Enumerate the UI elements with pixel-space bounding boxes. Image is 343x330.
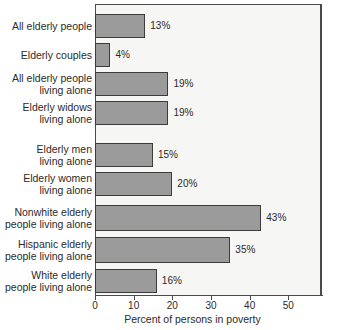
x-axis-tick-label: 20	[167, 301, 178, 311]
bar-value-label: 19%	[173, 79, 193, 89]
bar-value-label: 15%	[158, 150, 178, 160]
category-label: Elderly widows living alone	[0, 102, 92, 125]
x-axis-tick-label: 50	[283, 301, 294, 311]
x-axis-title: Percent of persons in poverty	[0, 314, 343, 325]
bar-value-label: 4%	[115, 50, 129, 60]
bar-value-label: 43%	[266, 213, 286, 223]
category-label: Elderly couples	[0, 50, 92, 62]
category-label: White elderly people living alone	[0, 270, 92, 293]
bar	[95, 269, 157, 293]
bar	[95, 205, 261, 231]
bar-value-label: 13%	[150, 21, 170, 31]
x-axis-title-text: Percent of persons in poverty	[124, 314, 261, 325]
bar-value-label: 35%	[235, 245, 255, 255]
bar	[95, 101, 168, 125]
bar	[95, 72, 168, 96]
category-label: All elderly people	[0, 21, 92, 33]
category-label: Elderly men living alone	[0, 144, 92, 167]
bar-value-label: 19%	[173, 108, 193, 118]
category-label: All elderly people living alone	[0, 73, 92, 96]
bar	[95, 237, 230, 263]
bar-value-label: 16%	[162, 276, 182, 286]
category-label: Nonwhite elderly people living alone	[0, 207, 92, 230]
category-label: Hispanic elderly people living alone	[0, 239, 92, 262]
bar	[95, 143, 153, 167]
x-axis-tick-label: 10	[128, 301, 139, 311]
bar	[95, 43, 110, 67]
x-axis-tick-label: 40	[244, 301, 255, 311]
x-axis-tick-label: 0	[92, 301, 98, 311]
bar-value-label: 20%	[177, 179, 197, 189]
poverty-bar-chart-figure: 13%4%19%19%15%20%43%35%16% All elderly p…	[0, 0, 343, 330]
bar	[95, 14, 145, 38]
category-label: Elderly women living alone	[0, 173, 92, 196]
x-axis-tick-label: 30	[205, 301, 216, 311]
bar	[95, 172, 172, 196]
